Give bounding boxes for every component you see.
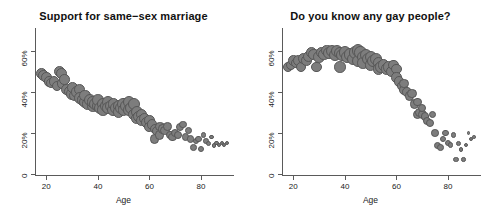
y-axis-tick-label: 40% (20, 91, 29, 131)
y-axis-tick-label: 20% (20, 132, 29, 172)
scatter-point (201, 132, 207, 138)
y-axis-tick (278, 92, 282, 93)
scatter-point (209, 135, 213, 139)
x-axis-tick-label: 60 (134, 182, 164, 191)
scatter-point (464, 143, 468, 147)
x-axis-tick (201, 176, 202, 180)
page-title: Do you know any gay people? (247, 10, 494, 22)
x-axis-tick-label: 60 (381, 182, 411, 191)
x-axis-title: Age (247, 195, 494, 205)
y-axis-tick-label: 40% (267, 91, 276, 131)
y-axis-tick (278, 174, 282, 175)
y-axis-tick-label: 0 (20, 174, 29, 214)
scatter-figure: Support for same−sex marriage Age 020%40… (0, 0, 495, 217)
scatter-point (163, 122, 172, 131)
y-axis-tick (278, 51, 282, 52)
x-axis-tick (149, 176, 150, 180)
scatter-point (453, 157, 459, 163)
scatter-point (448, 142, 454, 148)
scatter-point (407, 89, 416, 98)
scatter-point (442, 130, 448, 136)
scatter-point (456, 141, 461, 146)
x-axis-line (35, 175, 234, 176)
x-axis-title: Age (0, 195, 247, 205)
y-axis-tick (31, 92, 35, 93)
y-axis-tick (278, 133, 282, 134)
x-axis-tick (98, 176, 99, 180)
x-axis-tick (345, 176, 346, 180)
y-axis-tick-label: 60% (20, 50, 29, 90)
scatter-point (437, 144, 444, 151)
x-axis-tick-label: 80 (186, 182, 216, 191)
scatter-point (431, 129, 439, 137)
scatter-point (225, 141, 229, 145)
plot-area-left (36, 30, 232, 174)
panel-know-any-gay-people: Do you know any gay people? Age 020%40%6… (247, 0, 494, 217)
y-axis-tick-label: 0 (267, 174, 276, 214)
x-axis-tick-label: 40 (330, 182, 360, 191)
x-axis-tick (293, 176, 294, 180)
x-axis-tick (46, 176, 47, 180)
scatter-point (467, 131, 471, 135)
page-title: Support for same−sex marriage (0, 10, 247, 22)
y-axis-tick (31, 133, 35, 134)
scatter-point (174, 131, 182, 139)
scatter-point (461, 157, 465, 161)
x-axis-tick (396, 176, 397, 180)
y-axis-tick (31, 174, 35, 175)
scatter-point (190, 144, 197, 151)
y-axis-tick (31, 51, 35, 52)
scatter-point (472, 135, 476, 139)
x-axis-tick-label: 20 (278, 182, 308, 191)
scatter-point (185, 127, 192, 134)
y-axis-tick-label: 20% (267, 132, 276, 172)
scatter-point (459, 147, 464, 152)
x-axis-tick (448, 176, 449, 180)
scatter-point (206, 141, 211, 146)
y-axis-tick-label: 60% (267, 50, 276, 90)
scatter-point (451, 132, 456, 137)
x-axis-tick-label: 80 (433, 182, 463, 191)
x-axis-line (282, 175, 481, 176)
scatter-point (198, 146, 204, 152)
scatter-point (429, 111, 437, 119)
scatter-point (426, 119, 434, 127)
x-axis-tick-label: 20 (31, 182, 61, 191)
panel-support-same-sex-marriage: Support for same−sex marriage Age 020%40… (0, 0, 247, 217)
scatter-point (311, 62, 322, 73)
scatter-point (334, 61, 346, 73)
plot-area-right (283, 30, 479, 174)
x-axis-tick-label: 40 (83, 182, 113, 191)
